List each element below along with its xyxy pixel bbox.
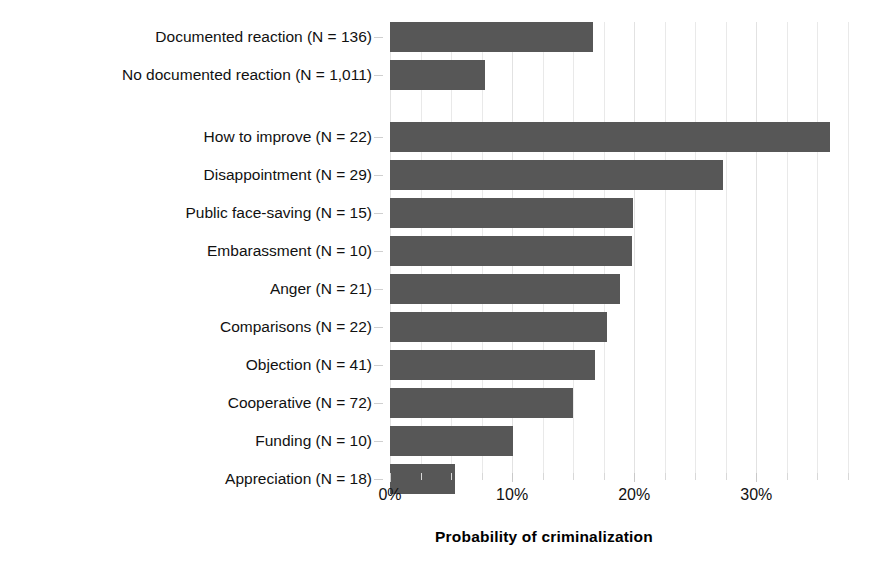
- bar-row: [390, 22, 854, 52]
- bar-row: [390, 160, 854, 190]
- category-label: No documented reaction (N = 1,011): [122, 67, 372, 83]
- x-tick-minor: [848, 473, 849, 480]
- x-tick-major: [512, 473, 513, 482]
- bar: [390, 122, 830, 152]
- bar: [390, 236, 632, 266]
- category-label: Comparisons (N = 22): [220, 319, 372, 335]
- axis-tick-stub: [374, 137, 383, 138]
- bar: [390, 388, 573, 418]
- axis-tick-stub: [374, 365, 383, 366]
- category-label: Disappointment (N = 29): [204, 167, 372, 183]
- x-tick-minor: [543, 473, 544, 480]
- bar-row: [390, 274, 854, 304]
- axis-tick-stub: [374, 441, 383, 442]
- x-tick-major: [390, 473, 391, 482]
- bar: [390, 198, 633, 228]
- bar: [390, 274, 620, 304]
- bar-row: [390, 388, 854, 418]
- axis-tick-stub: [374, 213, 383, 214]
- x-axis-tick-labels: 0%10%20%30%: [0, 487, 878, 513]
- x-tick-minor: [695, 473, 696, 480]
- bar-row: [390, 198, 854, 228]
- bar-row: [390, 312, 854, 342]
- x-tick-minor: [787, 473, 788, 480]
- bar-row: [390, 236, 854, 266]
- x-tick-minor: [726, 473, 727, 480]
- x-tick-minor: [665, 473, 666, 480]
- axis-tick-stub: [374, 403, 383, 404]
- axis-tick-stub: [374, 327, 383, 328]
- x-tick-label: 30%: [740, 487, 772, 503]
- bar: [390, 426, 513, 456]
- category-label: Appreciation (N = 18): [225, 471, 372, 487]
- bar: [390, 22, 593, 52]
- bar-row: [390, 60, 854, 90]
- x-tick-label: 20%: [618, 487, 650, 503]
- bar: [390, 350, 595, 380]
- x-tick-major: [756, 473, 757, 482]
- plot-area: [390, 22, 854, 473]
- category-label: Funding (N = 10): [255, 433, 372, 449]
- y-axis-category-labels: Documented reaction (N = 136)No document…: [0, 22, 372, 473]
- category-label: Cooperative (N = 72): [228, 395, 372, 411]
- x-axis-title-text: Probability of criminalization: [435, 528, 653, 546]
- bar-row: [390, 426, 854, 456]
- x-tick-major: [634, 473, 635, 482]
- axis-tick-stub: [374, 289, 383, 290]
- category-label: Documented reaction (N = 136): [155, 29, 372, 45]
- bar-series: [390, 22, 854, 473]
- bar-row: [390, 122, 854, 152]
- bar-chart: Documented reaction (N = 136)No document…: [0, 0, 878, 567]
- axis-tick-stub: [374, 37, 383, 38]
- bar: [390, 312, 607, 342]
- x-tick-minor: [604, 473, 605, 480]
- category-label: Anger (N = 21): [270, 281, 372, 297]
- x-tick-minor: [817, 473, 818, 480]
- x-axis: [390, 473, 854, 482]
- bar: [390, 60, 485, 90]
- category-label: How to improve (N = 22): [204, 129, 372, 145]
- bar: [390, 160, 723, 190]
- category-label: Objection (N = 41): [246, 357, 372, 373]
- bar-row: [390, 350, 854, 380]
- x-tick-minor: [451, 473, 452, 480]
- x-axis-title: Probability of criminalization: [0, 528, 878, 546]
- x-tick-minor: [482, 473, 483, 480]
- x-tick-label: 10%: [496, 487, 528, 503]
- category-label: Embarassment (N = 10): [207, 243, 372, 259]
- x-tick-label: 0%: [378, 487, 401, 503]
- x-tick-minor: [421, 473, 422, 480]
- x-tick-minor: [573, 473, 574, 480]
- category-label: Public face-saving (N = 15): [185, 205, 372, 221]
- axis-tick-stub: [374, 479, 383, 480]
- axis-tick-stub: [374, 75, 383, 76]
- axis-tick-stub: [374, 175, 383, 176]
- axis-tick-stub: [374, 251, 383, 252]
